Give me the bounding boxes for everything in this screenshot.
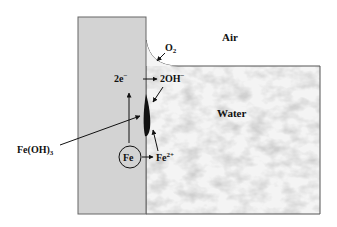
- iron-label: Fe: [123, 152, 134, 163]
- o2-label: O2: [165, 42, 177, 55]
- iron-metal-block: [78, 17, 146, 214]
- rust-label: Fe(OH)3: [17, 144, 54, 157]
- water-region: [146, 40, 320, 214]
- corrosion-diagram: Air Water O2 2e− 2OH− Fe Fe2+ Fe(OH)3: [0, 0, 337, 227]
- air-label: Air: [222, 31, 238, 43]
- water-label: Water: [217, 107, 246, 119]
